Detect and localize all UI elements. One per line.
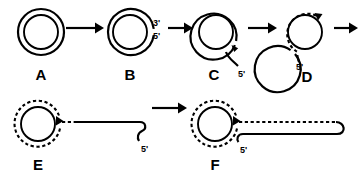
panel-e-template-strand <box>21 107 55 141</box>
arrow-d-to-e-icon <box>334 23 358 34</box>
panel-f: 5' F <box>192 101 344 173</box>
panel-e-growing-end-arrowhead <box>56 116 64 126</box>
panel-e: 5' E <box>15 101 149 173</box>
panel-f-five-prime-label: 5' <box>240 145 247 155</box>
panel-e-letter: E <box>33 156 43 173</box>
panel-f-tail-bottom-strand-solid <box>237 122 343 142</box>
panel-f-letter: F <box>210 156 219 173</box>
arrow-c-to-d-icon <box>248 23 277 34</box>
panel-b-inner-strand <box>113 15 147 49</box>
panel-d: 5' D <box>255 13 323 92</box>
arrow-b-to-c-icon <box>168 23 193 34</box>
panel-c-outer-strand-peeled <box>191 14 237 60</box>
panel-a-letter: A <box>36 66 47 83</box>
panel-f-growing-end-arrowhead <box>233 116 241 126</box>
panel-a-inner-strand <box>24 15 58 49</box>
panel-e-five-prime-label: 5' <box>141 144 148 154</box>
panel-d-letter: D <box>302 68 313 85</box>
panel-c-five-prime-label: 5' <box>238 69 245 79</box>
rolling-circle-replication-figure: A 3' 5' B 5' C <box>0 0 359 174</box>
arrow-a-to-b-icon <box>66 23 104 34</box>
panel-d-displaced-stub <box>297 55 299 62</box>
panel-b-letter: B <box>125 66 136 83</box>
panel-d-outer-strand <box>255 46 301 92</box>
panel-b: 3' 5' B <box>108 9 160 83</box>
panel-b-five-prime-label: 5' <box>153 31 160 41</box>
panel-e-displaced-tail <box>76 122 145 141</box>
arrow-e-to-f-icon <box>152 103 187 114</box>
panel-a: A <box>18 9 64 83</box>
panel-f-template-strand <box>198 107 232 141</box>
panel-b-three-prime-label: 3' <box>153 18 160 28</box>
panel-c-letter: C <box>209 66 220 83</box>
panel-c-displaced-tail <box>226 52 238 66</box>
panel-c-template-strand <box>199 15 233 49</box>
panel-c: 5' C <box>191 14 246 83</box>
